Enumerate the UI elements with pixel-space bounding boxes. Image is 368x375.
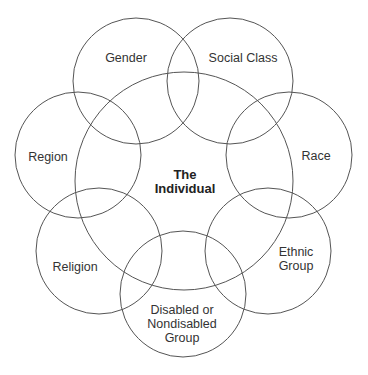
label-disabled-group-line2: Nondisabled [147, 317, 217, 331]
label-gender: Gender [105, 51, 147, 65]
label-religion-text: Religion [52, 260, 97, 274]
label-region-text: Region [28, 150, 68, 164]
label-religion: Religion [52, 260, 97, 274]
center-label-line2: Individual [155, 182, 216, 196]
label-region: Region [28, 150, 68, 164]
circle-religion [36, 188, 162, 314]
label-ethnic-group-line2: Group [279, 259, 314, 273]
label-disabled-group-line3: Group [147, 331, 217, 345]
label-social-class: Social Class [209, 51, 278, 65]
circle-social-class [167, 18, 293, 144]
center-label: The Individual [155, 168, 216, 196]
label-disabled-group-line1: Disabled or [147, 303, 217, 317]
label-gender-text: Gender [105, 51, 147, 65]
label-race-text: Race [301, 149, 330, 163]
label-social-class-text: Social Class [209, 51, 278, 65]
label-ethnic-group: Ethnic Group [279, 245, 314, 273]
label-race: Race [301, 149, 330, 163]
center-label-line1: The [155, 168, 216, 182]
circle-gender [73, 18, 199, 144]
circle-race [226, 92, 352, 218]
label-ethnic-group-line1: Ethnic [279, 245, 314, 259]
label-disabled-group: Disabled or Nondisabled Group [147, 303, 217, 345]
